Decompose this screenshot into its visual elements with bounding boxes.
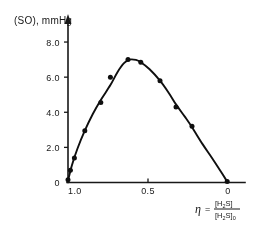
fraction-denominator: [H2S]0 xyxy=(215,211,236,221)
y-tick-label: 6.0 xyxy=(46,73,60,83)
fraction-numerator: [H2S] xyxy=(215,199,233,209)
data-point xyxy=(138,60,143,65)
x-tick-label: 0 xyxy=(225,186,230,196)
y-tick-label: 8.0 xyxy=(46,38,60,48)
numerator-text: [H xyxy=(215,199,223,208)
denominator-zero: 0 xyxy=(233,215,236,221)
x-tick-label: 1.0 xyxy=(68,186,82,196)
data-point xyxy=(66,177,71,182)
data-point xyxy=(98,100,103,105)
y-axis-label: (SO), mmHg xyxy=(14,15,72,26)
x-tick-labels: 1.00.50 xyxy=(68,186,231,196)
data-point xyxy=(72,155,77,160)
plot-area: 02.04.06.08.0 1.00.50 xyxy=(46,14,245,196)
data-point xyxy=(190,124,195,129)
eta-symbol: η xyxy=(195,202,201,216)
denominator-bracket: [H2S]0 xyxy=(215,211,236,221)
y-tick-label: 4.0 xyxy=(46,108,60,118)
x-axis-label: η = [H2S] [H2S]0 xyxy=(195,199,240,221)
axes xyxy=(65,14,245,183)
chart-figure: 02.04.06.08.0 1.00.50 (SO), mmHg η = [H2… xyxy=(0,0,265,226)
data-point xyxy=(174,105,179,110)
numerator-bracket: [H2S] xyxy=(215,199,233,209)
data-point xyxy=(158,78,163,83)
denominator-text: [H xyxy=(215,211,223,220)
equals-sign: = xyxy=(205,204,210,214)
numerator-tail: S] xyxy=(226,199,233,208)
data-point xyxy=(108,75,113,80)
x-tick-label: 0.5 xyxy=(141,186,155,196)
data-point xyxy=(82,128,87,133)
y-tick-label: 0 xyxy=(55,178,60,188)
y-tick-label: 2.0 xyxy=(46,143,60,153)
denominator-tail: S] xyxy=(226,211,233,220)
data-point xyxy=(225,179,230,184)
data-curve xyxy=(68,59,227,181)
data-point xyxy=(68,168,73,173)
data-point xyxy=(126,57,131,62)
y-tick-labels: 02.04.06.08.0 xyxy=(46,38,60,188)
